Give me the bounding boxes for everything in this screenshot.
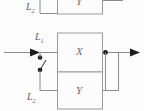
label-top-branch: L2: [26, 2, 35, 14]
output-arrow-icon: [130, 49, 140, 57]
main-path-group: [4, 33, 140, 72]
block-y-label: Y: [76, 85, 82, 96]
switch-group: [38, 53, 46, 91]
input-arrow-icon: [30, 49, 40, 57]
block-diagram-svg: [0, 0, 144, 111]
label-top-branch-sub: 2: [32, 7, 35, 14]
label-input-node: L1: [35, 32, 44, 44]
label-bottom-branch-sub: 2: [33, 97, 36, 104]
label-input-node-sub: 1: [41, 37, 44, 44]
label-bottom-branch: L2: [27, 92, 36, 104]
block-top-label: Y: [76, 0, 82, 7]
block-x-label: X: [76, 46, 83, 57]
diagram-canvas: L2 Y L1 X L2 Y: [0, 0, 144, 111]
